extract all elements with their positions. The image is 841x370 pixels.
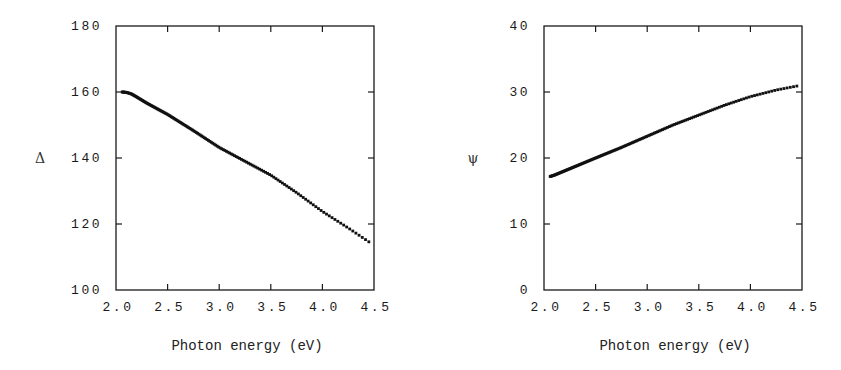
- x-tick-label: 4.0: [309, 300, 340, 315]
- data-point: [328, 214, 331, 217]
- data-point: [345, 226, 348, 229]
- data-point: [331, 216, 334, 219]
- data-point: [727, 102, 730, 105]
- plot-frame: [544, 26, 802, 290]
- data-point: [773, 89, 776, 92]
- x-tick-label: 2.5: [154, 300, 185, 315]
- data-point: [351, 230, 354, 233]
- data-point: [307, 200, 310, 203]
- data-point: [361, 236, 364, 239]
- y-tick-label: 100: [71, 283, 102, 298]
- data-point: [795, 85, 798, 88]
- data-point: [367, 240, 370, 243]
- y-tick-label: 160: [71, 85, 102, 100]
- y-axis-label: ψ: [468, 150, 479, 166]
- data-point: [364, 238, 367, 241]
- y-axis-label: Δ: [35, 150, 45, 166]
- data-point: [742, 97, 745, 100]
- data-point: [314, 205, 317, 208]
- data-point: [317, 207, 320, 210]
- data-point: [789, 86, 792, 89]
- data-point: [302, 196, 305, 199]
- x-tick-label: 2.0: [103, 300, 134, 315]
- data-point: [730, 102, 733, 105]
- data-point: [759, 93, 762, 96]
- data-point: [776, 88, 779, 91]
- y-tick-label: 120: [71, 217, 102, 232]
- data-point: [792, 85, 795, 88]
- data-point: [348, 228, 351, 231]
- x-axis-label: Photon energy (eV): [599, 338, 750, 354]
- data-point: [735, 100, 738, 103]
- x-tick-label: 2.0: [531, 300, 562, 315]
- data-point: [767, 91, 770, 94]
- data-point: [322, 211, 325, 214]
- x-axis-label: Photon energy (eV): [171, 338, 322, 354]
- y-tick-label: 30: [509, 85, 530, 100]
- data-point: [339, 222, 342, 225]
- data-point: [779, 88, 782, 91]
- data-point: [762, 92, 765, 95]
- data-point: [312, 203, 315, 206]
- delta-plot: 2.02.53.03.54.04.5100120140160180Photon …: [35, 19, 392, 354]
- data-point: [750, 95, 753, 98]
- y-tick-label: 40: [509, 19, 530, 34]
- data-point: [737, 99, 740, 102]
- data-point: [732, 101, 735, 104]
- data-point: [725, 103, 728, 106]
- data-point: [782, 87, 785, 90]
- data-point: [336, 220, 339, 223]
- x-tick-label: 3.5: [685, 300, 716, 315]
- data-point: [320, 209, 323, 212]
- psi-plot: 2.02.53.03.54.04.5010203040Photon energy…: [468, 19, 820, 354]
- data-point: [334, 218, 337, 221]
- data-point: [753, 94, 756, 97]
- x-tick-label: 4.5: [789, 300, 820, 315]
- x-tick-label: 3.0: [634, 300, 665, 315]
- x-tick-label: 3.0: [206, 300, 237, 315]
- data-point: [297, 193, 300, 196]
- data-point: [299, 194, 302, 197]
- figure: 2.02.53.03.54.04.5100120140160180Photon …: [0, 0, 841, 370]
- x-tick-label: 4.5: [361, 300, 392, 315]
- data-point: [786, 87, 789, 90]
- data-point: [358, 234, 361, 237]
- data-point: [748, 96, 751, 99]
- data-point: [304, 198, 307, 201]
- y-tick-label: 140: [71, 151, 102, 166]
- x-tick-label: 3.5: [257, 300, 288, 315]
- data-point: [354, 232, 357, 235]
- data-point: [740, 98, 743, 101]
- x-tick-label: 4.0: [737, 300, 768, 315]
- data-point: [745, 97, 748, 100]
- plot-frame: [116, 26, 374, 290]
- data-point: [342, 224, 345, 227]
- y-tick-label: 10: [509, 217, 530, 232]
- data-point: [756, 93, 759, 96]
- y-tick-label: 20: [509, 151, 530, 166]
- y-tick-label: 0: [520, 283, 530, 298]
- data-point: [764, 91, 767, 94]
- x-tick-label: 2.5: [582, 300, 613, 315]
- data-point: [325, 213, 328, 216]
- data-point: [309, 202, 312, 205]
- data-point: [770, 90, 773, 93]
- y-tick-label: 180: [71, 19, 102, 34]
